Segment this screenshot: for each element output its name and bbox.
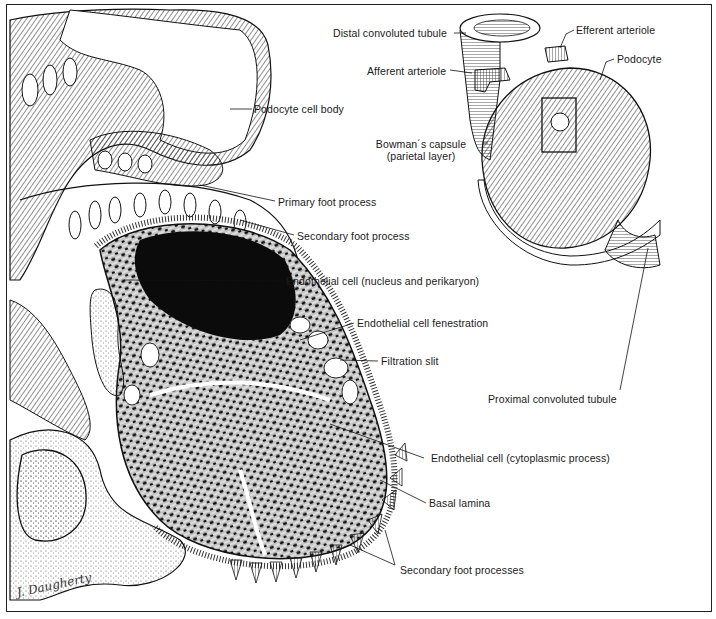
label-filtration-slit: Filtration slit xyxy=(381,355,439,367)
label-bowmans-capsule: Bowman´s capsule (parietal layer) xyxy=(362,138,480,162)
illustration xyxy=(0,0,716,619)
label-basal-lamina: Basal lamina xyxy=(429,497,490,509)
label-afferent-arteriole: Afferent arteriole xyxy=(367,65,446,77)
label-bowmans-capsule-line2: (parietal layer) xyxy=(362,150,480,162)
label-proximal-convoluted-tubule: Proximal convoluted tubule xyxy=(488,393,617,405)
label-distal-convoluted-tubule: Distal convoluted tubule xyxy=(333,27,447,39)
label-secondary-foot-processes: Secondary foot processes xyxy=(400,564,524,576)
label-primary-foot-process: Primary foot process xyxy=(278,196,376,208)
label-endothelial-cytoplasmic: Endothelial cell (cytoplasmic process) xyxy=(431,452,610,464)
label-podocyte: Podocyte xyxy=(617,53,662,65)
label-podocyte-cell-body: Podocyte cell body xyxy=(254,103,344,115)
label-endothelial-nucleus: Endothelial cell (nucleus and perikaryon… xyxy=(286,275,479,287)
label-bowmans-capsule-line1: Bowman´s capsule xyxy=(362,138,480,150)
label-endothelial-fenestration: Endothelial cell fenestration xyxy=(357,317,488,329)
label-efferent-arteriole: Efferent arteriole xyxy=(576,24,655,36)
label-secondary-foot-process: Secondary foot process xyxy=(297,230,410,242)
